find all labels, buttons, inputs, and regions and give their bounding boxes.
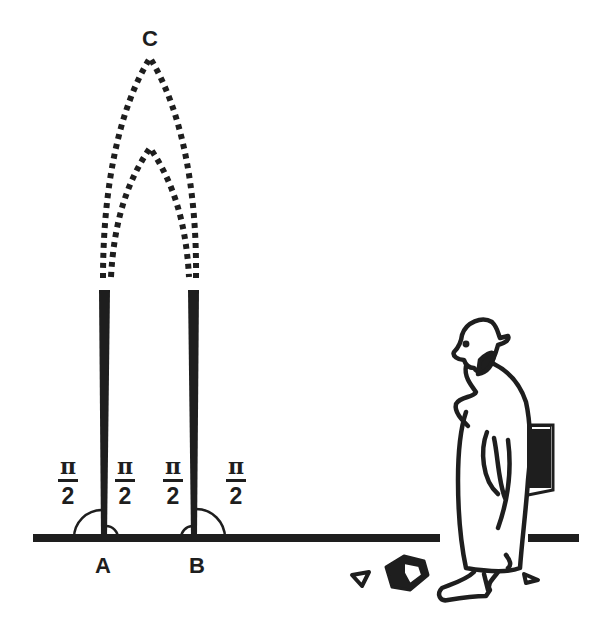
perpendicular-line-b <box>188 290 199 538</box>
stone-triangle-left <box>352 572 369 586</box>
denominator: 2 <box>167 485 180 508</box>
point-label-a: A <box>95 553 111 579</box>
diagram-canvas <box>0 0 611 640</box>
denominator: 2 <box>230 485 243 508</box>
thinker-figure <box>439 320 530 601</box>
denominator: 2 <box>119 485 132 508</box>
stone-triangle-right <box>524 574 538 583</box>
point-label-c: C <box>142 26 158 52</box>
fraction-bar <box>226 479 246 482</box>
pi-symbol: π <box>117 455 133 477</box>
angle-label-a-right: π 2 <box>115 455 135 508</box>
fraction-bar <box>115 479 135 482</box>
pi-symbol: π <box>228 455 244 477</box>
denominator: 2 <box>62 485 75 508</box>
angle-arc-b-right <box>196 509 225 538</box>
pi-symbol: π <box>60 455 76 477</box>
baseline <box>33 534 579 542</box>
angle-label-b-left: π 2 <box>163 455 183 508</box>
point-label-b: B <box>189 553 205 579</box>
pi-symbol: π <box>165 455 181 477</box>
fraction-bar <box>58 479 78 482</box>
book-icon <box>527 425 553 495</box>
angle-label-a-left: π 2 <box>58 455 78 508</box>
angle-label-b-right: π 2 <box>226 455 246 508</box>
perpendicular-line-a <box>99 290 110 538</box>
dotted-curve-inner <box>111 148 189 277</box>
fraction-bar <box>163 479 183 482</box>
angle-arc-a-left <box>74 510 102 538</box>
